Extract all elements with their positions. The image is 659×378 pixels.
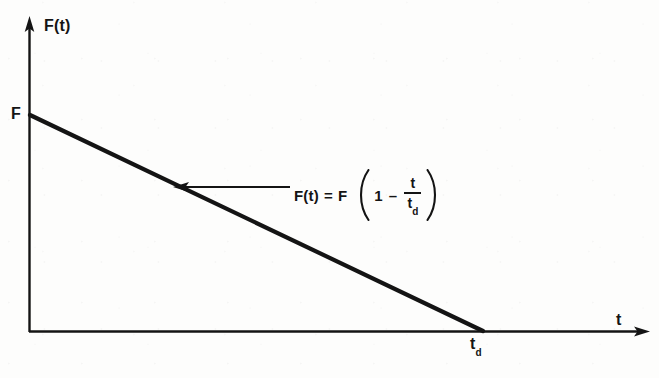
x-axis-label: t [616, 312, 622, 328]
equation-equals-sign: = [324, 188, 333, 203]
decay-line [30, 115, 483, 331]
x-axis-tick-label-td: td [470, 336, 482, 355]
td-base: t [470, 335, 476, 352]
figure-container: F(t) t F td F(t) = F 1 – t td [0, 0, 659, 378]
equation-one: 1 [374, 188, 383, 203]
fraction-numerator: t [408, 175, 419, 191]
equation-parenthetical: 1 – t td [359, 169, 437, 221]
fraction-denominator: td [405, 195, 422, 215]
y-axis-label: F(t) [44, 18, 71, 34]
equation-annotation: F(t) = F 1 – t td [294, 169, 437, 221]
equation-amplitude-F: F [338, 188, 347, 203]
close-paren-icon [426, 169, 437, 221]
fraction-bar [404, 192, 421, 195]
denominator-subscript: d [412, 206, 418, 217]
y-axis-tick-label-F: F [11, 106, 21, 122]
equation-fraction-t-over-td: t td [404, 175, 421, 215]
equation-minus-sign: – [387, 188, 400, 203]
equation-lhs: F(t) [294, 188, 319, 203]
td-subscript: d [476, 347, 482, 358]
open-paren-icon [359, 169, 370, 221]
